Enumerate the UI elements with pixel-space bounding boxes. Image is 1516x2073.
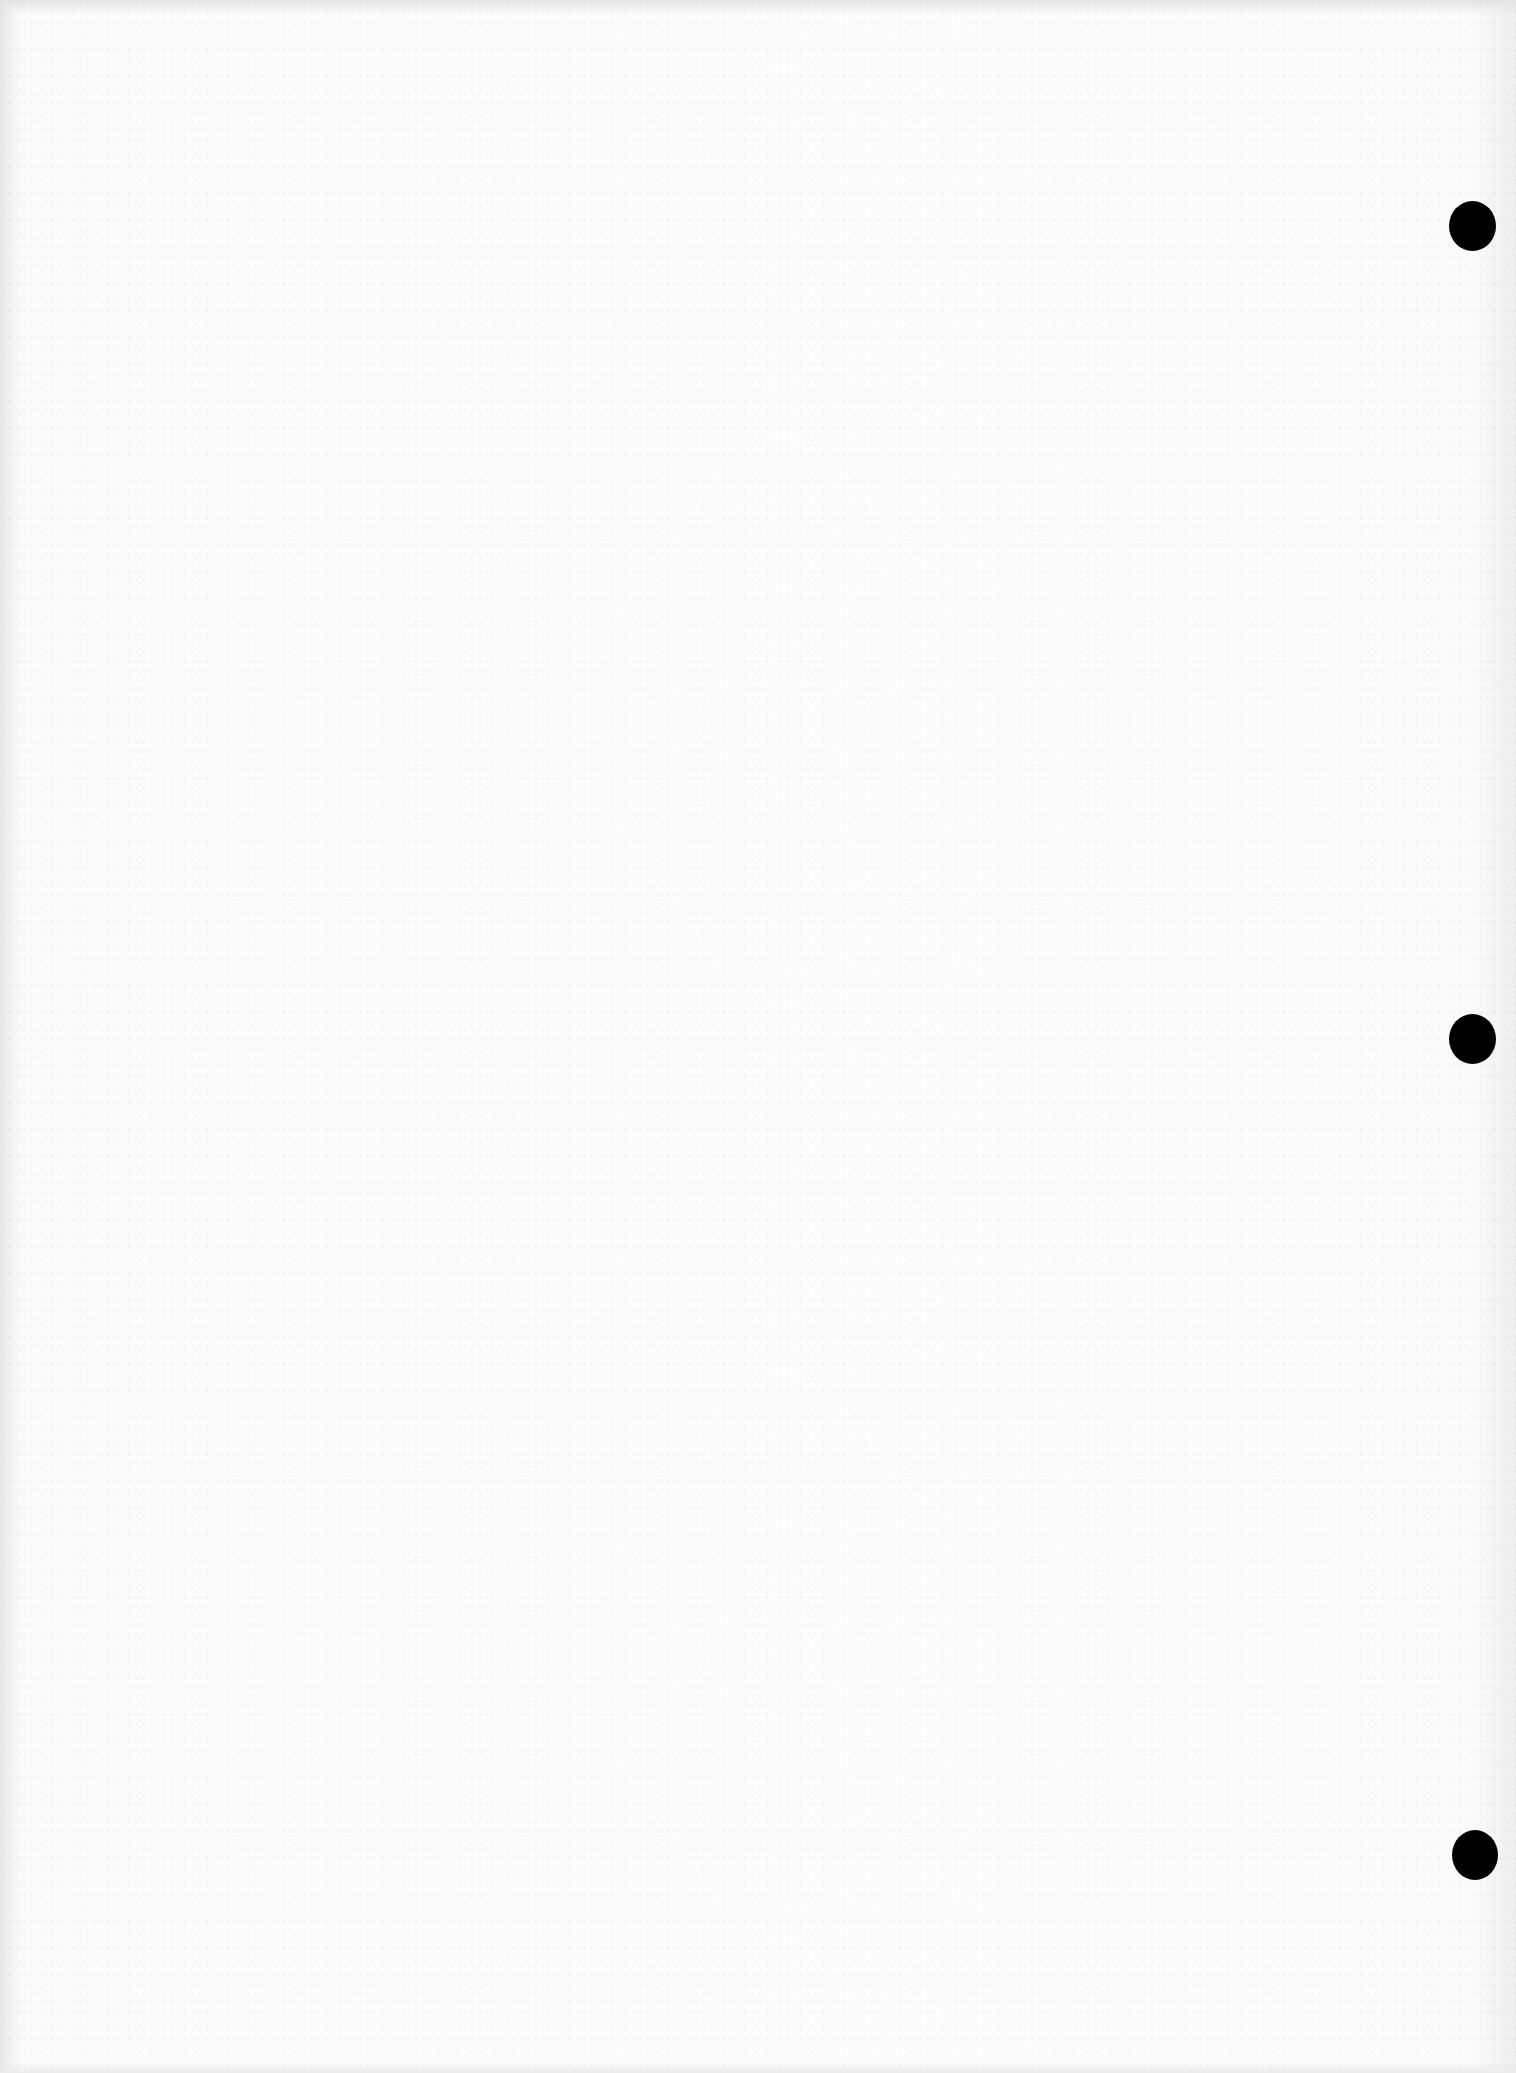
punch-hole-top [1449,201,1496,251]
punch-hole-bottom [1452,1830,1498,1880]
scanned-page [0,0,1516,2073]
paper-texture [0,0,1516,2073]
punch-hole-middle [1449,1014,1496,1064]
page-text [0,0,1,1]
